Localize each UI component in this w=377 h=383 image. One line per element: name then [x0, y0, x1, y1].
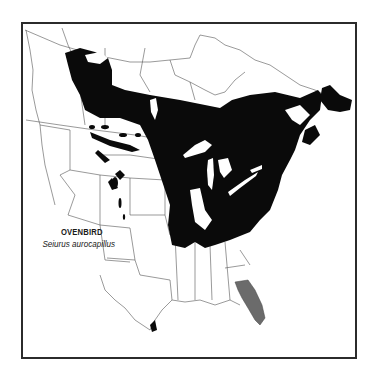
breeding-patch-texas [150, 320, 157, 332]
gulf-coast [172, 300, 240, 305]
breeding-patch [135, 133, 141, 137]
breeding-range [65, 48, 352, 332]
range-map [0, 0, 377, 383]
west-coast [26, 30, 55, 205]
breeding-patch [119, 198, 122, 208]
breeding-patch [123, 214, 125, 220]
scientific-name: Seiurus aurocapillus [42, 238, 115, 249]
hudson-bay-coast [170, 60, 245, 95]
breeding-patch [89, 125, 95, 129]
florida-range [235, 280, 265, 325]
common-name: OVENBIRD [48, 227, 116, 238]
breeding-range-newfoundland [320, 85, 352, 112]
species-label: OVENBIRD Seiurus aurocapillus [42, 227, 122, 249]
breeding-patch [119, 133, 127, 137]
texas-outline [100, 258, 172, 330]
breeding-patch [101, 125, 109, 129]
breeding-range-nova-scotia [302, 125, 320, 145]
breeding-patch [112, 177, 118, 189]
